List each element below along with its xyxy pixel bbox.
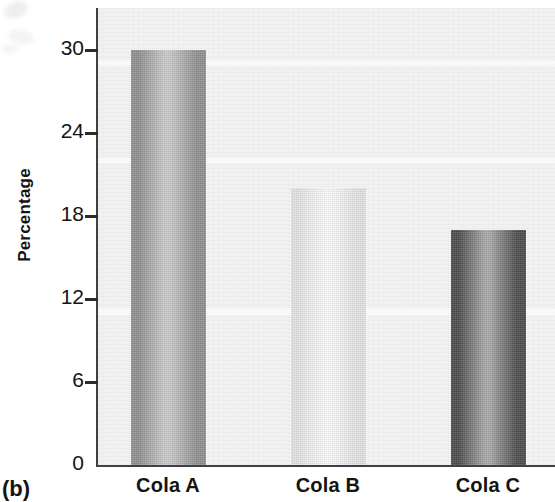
plot-area [98, 8, 555, 465]
bar [131, 50, 206, 465]
y-tick-mark [85, 132, 98, 135]
y-tick-label: 6 [40, 368, 84, 392]
bar [451, 230, 526, 465]
x-tick-label: Cola C [408, 474, 555, 497]
y-tick-label: 18 [40, 202, 84, 226]
x-tick-label: Cola A [88, 474, 248, 497]
figure-label: (b) [2, 476, 30, 502]
y-tick-mark [85, 298, 98, 301]
y-tick-label: 12 [40, 285, 84, 309]
y-tick-label: 0 [40, 451, 84, 475]
y-axis-line [96, 8, 98, 467]
y-tick-mark [85, 49, 98, 52]
y-tick-mark [85, 215, 98, 218]
bar-fill [291, 188, 366, 465]
y-tick-mark [85, 381, 98, 384]
x-tick-label: Cola B [248, 474, 408, 497]
y-tick-label: 30 [40, 36, 84, 60]
y-tick-label: 24 [40, 119, 84, 143]
scan-smudge-icon [7, 27, 35, 46]
x-axis-line [96, 465, 555, 467]
bar-grain [451, 230, 526, 465]
scan-smudge-icon [2, 0, 30, 21]
bar-fill [451, 230, 526, 465]
y-tick-labels: 0612182430 [34, 0, 84, 502]
scan-smudge-icon [2, 44, 18, 54]
y-axis-title: Percentage [15, 150, 35, 280]
bar [291, 188, 366, 465]
bar-chart-figure: 0612182430 Percentage Cola ACola BCola C… [0, 0, 555, 502]
bar-grain [131, 50, 206, 465]
bar-fill [131, 50, 206, 465]
bar-grain [291, 188, 366, 465]
